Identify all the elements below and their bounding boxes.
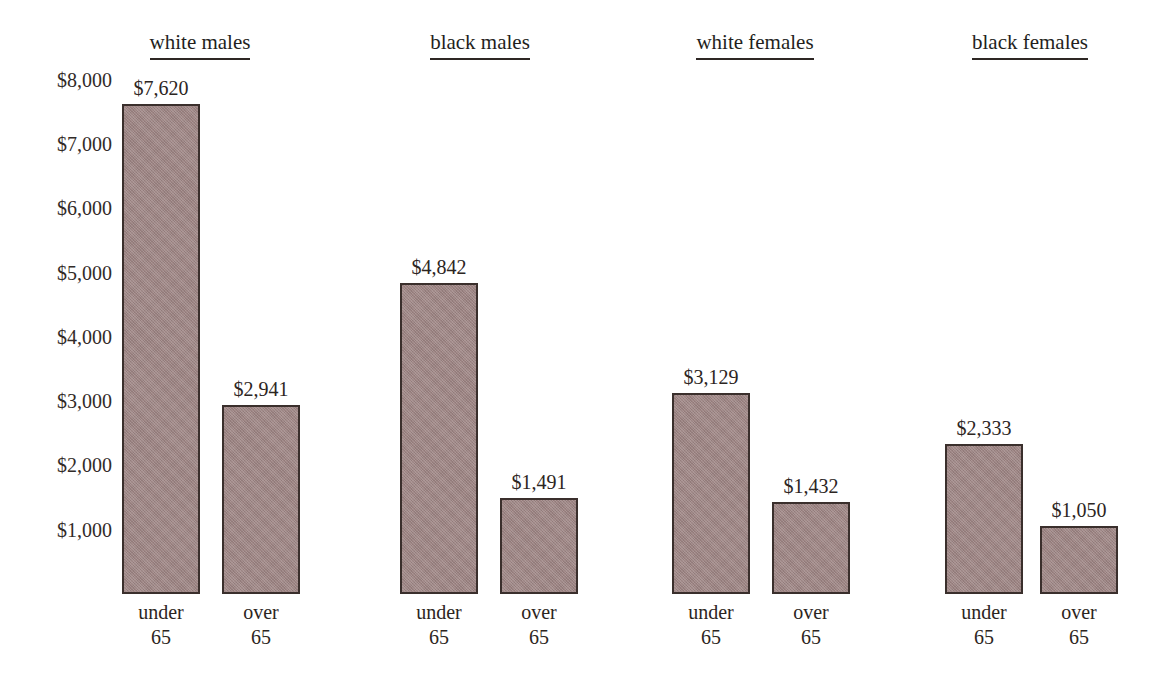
bar: [222, 405, 300, 594]
group-header-white-males: white males: [120, 32, 280, 60]
bar-category-label: over65: [742, 600, 880, 650]
bar: [500, 498, 578, 594]
bar: [672, 393, 750, 594]
y-axis-tick-label: $7,000: [57, 134, 112, 154]
bar: [1040, 526, 1118, 594]
y-axis-tick-label: $6,000: [57, 198, 112, 218]
bar: [400, 283, 478, 594]
group-header-black-females: black females: [940, 32, 1120, 60]
y-axis-tick-label: $2,000: [57, 455, 112, 475]
group-header-label: black females: [972, 32, 1088, 60]
group-header-black-males: black males: [400, 32, 560, 60]
bar-value-label: $2,333: [915, 418, 1053, 438]
bar-value-label: $2,941: [192, 379, 330, 399]
bar-chart: $8,000$7,000$6,000$5,000$4,000$3,000$2,0…: [0, 0, 1150, 674]
bar-value-label: $1,491: [470, 472, 608, 492]
group-header-label: black males: [430, 32, 530, 60]
group-header-label: white females: [696, 32, 813, 60]
bar-value-label: $4,842: [370, 257, 508, 277]
y-axis-tick-label: $4,000: [57, 327, 112, 347]
bar: [122, 104, 200, 594]
bar-value-label: $1,050: [1010, 500, 1148, 520]
y-axis-tick-label: $3,000: [57, 391, 112, 411]
y-axis: $8,000$7,000$6,000$5,000$4,000$3,000$2,0…: [28, 0, 112, 674]
y-axis-tick-label: $1,000: [57, 520, 112, 540]
bar-category-label: over65: [1010, 600, 1148, 650]
bar-category-label: over65: [470, 600, 608, 650]
bar-value-label: $1,432: [742, 476, 880, 496]
bar-value-label: $7,620: [92, 78, 230, 98]
group-header-white-females: white females: [665, 32, 845, 60]
bar-category-label: over65: [192, 600, 330, 650]
group-header-label: white males: [150, 32, 251, 60]
bar: [772, 502, 850, 594]
bar-value-label: $3,129: [642, 367, 780, 387]
y-axis-tick-label: $5,000: [57, 263, 112, 283]
